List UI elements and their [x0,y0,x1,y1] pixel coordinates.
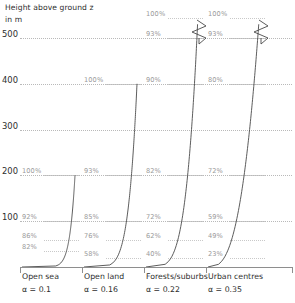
column-name-urban-centres: Urban centres [208,272,263,281]
profile-curve-forests-suburbs [146,24,198,267]
wind-profile-chart: Height above ground z in m 1002003004005… [0,0,295,303]
column-name-forests-suburbs: Forests/suburbs [146,272,208,281]
profile-curve-open-land [84,84,137,267]
column-alpha-urban-centres: α = 0.35 [208,285,242,294]
axis-tick [20,267,21,273]
column-alpha-forests-suburbs: α = 0.22 [146,285,180,294]
profile-curves-group [0,0,295,303]
column-name-open-land: Open land [84,272,124,281]
profile-curve-urban-centres [208,24,259,267]
column-alpha-open-sea: α = 0.1 [22,285,51,294]
baseline-axis [20,267,292,268]
column-alpha-open-land: α = 0.16 [84,285,118,294]
profile-curve-open-sea [22,175,75,267]
axis-tick [82,267,83,273]
column-name-open-sea: Open sea [22,272,59,281]
axis-tick [292,267,293,273]
axis-tick [144,267,145,273]
